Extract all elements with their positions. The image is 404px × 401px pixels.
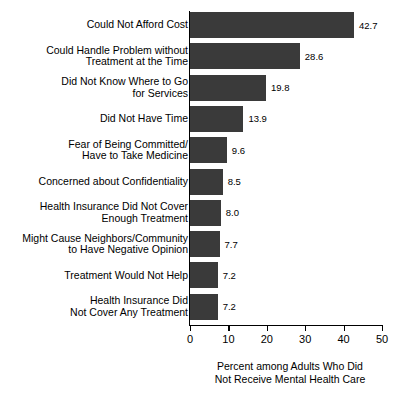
category-label: Did Not Have Time (10, 103, 188, 134)
x-axis-tick-label: 0 (170, 333, 210, 345)
x-axis-title: Percent among Adults Who Did Not Receive… (190, 360, 390, 386)
bar (190, 294, 218, 320)
x-axis-tick-label: 20 (247, 333, 287, 345)
bar-row: Concerned about Confidentiality8.5 (0, 166, 404, 197)
category-label: Concerned about Confidentiality (10, 166, 188, 197)
bar-value-label: 8.0 (226, 197, 239, 228)
category-label: Health Insurance Did Not Cover Any Treat… (10, 291, 188, 322)
bar (190, 106, 243, 132)
category-label: Could Not Afford Cost (10, 10, 188, 41)
bar-row: Did Not Have Time13.9 (0, 103, 404, 134)
bar-row: Could Not Afford Cost42.7 (0, 10, 404, 41)
bar-row: Treatment Would Not Help7.2 (0, 260, 404, 291)
bar (190, 75, 266, 101)
bar (190, 12, 354, 38)
bar-chart: Could Not Afford Cost42.7Could Handle Pr… (0, 0, 404, 401)
bar-value-label: 9.6 (232, 135, 245, 166)
bar (190, 137, 227, 163)
bar-value-label: 13.9 (248, 103, 267, 134)
x-axis-tick (305, 326, 306, 331)
bar (190, 200, 221, 226)
category-label: Fear of Being Committed/ Have to Take Me… (10, 135, 188, 166)
x-axis-tick-label: 10 (208, 333, 248, 345)
category-label: Treatment Would Not Help (10, 260, 188, 291)
bar-row: Might Cause Neighbors/Community to Have … (0, 229, 404, 260)
bar (190, 169, 223, 195)
bar-value-label: 19.8 (271, 72, 290, 103)
bar-value-label: 42.7 (359, 10, 378, 41)
category-label: Could Handle Problem without Treatment a… (10, 41, 188, 72)
x-axis-tick-label: 40 (324, 333, 364, 345)
x-axis-tick (344, 326, 345, 331)
bar-row: Health Insurance Did Not Cover Any Treat… (0, 291, 404, 322)
bar-row: Health Insurance Did Not Cover Enough Tr… (0, 197, 404, 228)
x-axis-tick (228, 326, 229, 331)
x-axis-line (190, 325, 383, 326)
x-axis-tick (382, 326, 383, 331)
bar (190, 231, 220, 257)
bar (190, 43, 300, 69)
bar-value-label: 7.2 (223, 291, 236, 322)
bar (190, 262, 218, 288)
bar-row: Could Handle Problem without Treatment a… (0, 41, 404, 72)
bar-value-label: 8.5 (228, 166, 241, 197)
bar-row: Fear of Being Committed/ Have to Take Me… (0, 135, 404, 166)
y-axis-line (189, 11, 190, 326)
bar-value-label: 28.6 (305, 41, 324, 72)
x-axis-tick-label: 50 (362, 333, 402, 345)
category-label: Did Not Know Where to Go for Services (10, 72, 188, 103)
x-axis-tick-label: 30 (285, 333, 325, 345)
x-axis-tick (267, 326, 268, 331)
x-axis-tick (190, 326, 191, 331)
bar-value-label: 7.7 (225, 229, 238, 260)
category-label: Might Cause Neighbors/Community to Have … (10, 229, 188, 260)
bar-row: Did Not Know Where to Go for Services19.… (0, 72, 404, 103)
category-label: Health Insurance Did Not Cover Enough Tr… (10, 197, 188, 228)
bar-value-label: 7.2 (223, 260, 236, 291)
